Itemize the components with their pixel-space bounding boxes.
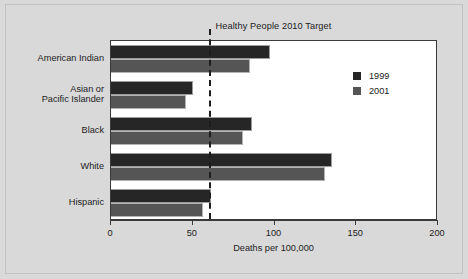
chart-title: Healthy People 2010 Target (110, 21, 437, 31)
y-tick-label: Asian orPacific Islander (0, 84, 104, 105)
plot-area (110, 40, 437, 220)
y-tick-label: White (0, 161, 104, 172)
x-tick-label: 200 (429, 228, 444, 238)
bar-white-1999[interactable] (111, 153, 332, 167)
bar-american-indian-2001[interactable] (111, 59, 250, 73)
figure: Healthy People 2010 Target American Indi… (0, 0, 468, 279)
bar-asian-or-pacific-islander-1999[interactable] (111, 81, 193, 95)
y-tick-label-line: White (0, 161, 104, 172)
x-tick-mark (355, 220, 356, 225)
y-tick-label: American Indian (0, 53, 104, 64)
legend-item-1999[interactable]: 1999 (352, 68, 389, 83)
bar-american-indian-1999[interactable] (111, 45, 270, 59)
bar-group (111, 149, 436, 185)
bar-group (111, 113, 436, 149)
bar-white-2001[interactable] (111, 167, 325, 181)
legend-swatch-icon (352, 86, 362, 96)
y-tick-label: Black (0, 125, 104, 136)
y-tick-label-line: Pacific Islander (0, 94, 104, 105)
target-line-icon (209, 29, 211, 219)
legend-label: 1999 (369, 71, 389, 81)
x-tick-mark (437, 220, 438, 225)
y-tick-label-line: American Indian (0, 53, 104, 64)
x-tick-mark (274, 220, 275, 225)
legend-label: 2001 (369, 86, 389, 96)
bar-black-1999[interactable] (111, 117, 252, 131)
bar-asian-or-pacific-islander-2001[interactable] (111, 95, 186, 109)
bar-black-2001[interactable] (111, 131, 243, 145)
bar-hispanic-2001[interactable] (111, 203, 203, 217)
x-tick-mark (192, 220, 193, 225)
y-tick-label: Hispanic (0, 197, 104, 208)
x-tick-label: 50 (187, 228, 197, 238)
x-tick-mark (110, 220, 111, 225)
bar-group (111, 185, 436, 221)
bar-hispanic-1999[interactable] (111, 189, 211, 203)
legend-swatch-icon (352, 71, 362, 81)
legend: 19992001 (352, 68, 389, 98)
x-tick-label: 150 (348, 228, 363, 238)
x-tick-label: 0 (107, 228, 112, 238)
x-axis-title: Deaths per 100,000 (110, 243, 437, 253)
y-tick-label-line: Asian or (0, 84, 104, 95)
legend-item-2001[interactable]: 2001 (352, 83, 389, 98)
y-tick-label-line: Black (0, 125, 104, 136)
x-tick-label: 100 (266, 228, 281, 238)
y-tick-label-line: Hispanic (0, 197, 104, 208)
